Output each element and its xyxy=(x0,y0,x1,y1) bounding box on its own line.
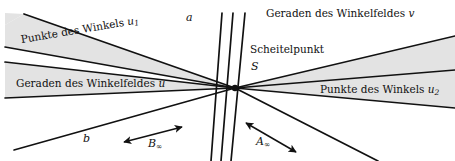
label-lines-of-angle-field-v-symbol: v xyxy=(408,7,414,19)
label-points-of-angle-u2-subscript: 2 xyxy=(435,88,440,97)
label-lines-of-angle-field-v-text: Geraden des Winkelfeldes xyxy=(266,7,408,19)
label-arrow-b-symbol: B xyxy=(148,137,156,150)
angle-field-diagram: a b Punkte des Winkels u1 Geraden des Wi… xyxy=(0,0,455,161)
label-line-a: a xyxy=(186,12,193,23)
label-points-of-angle-u2-symbol: u xyxy=(428,83,435,95)
label-line-b: b xyxy=(83,133,90,144)
label-arrow-a-infinity: A∞ xyxy=(256,136,270,148)
label-arrow-b-infinity: B∞ xyxy=(148,138,162,150)
ray-b xyxy=(14,88,235,150)
label-arrow-b-subscript: ∞ xyxy=(156,142,162,151)
label-arrow-a-subscript: ∞ xyxy=(264,140,270,149)
arrow-a-infinity xyxy=(246,123,296,152)
label-lines-of-angle-field-u-symbol: u xyxy=(158,77,165,89)
label-lines-of-angle-field-u-text: Geraden des Winkelfeldes xyxy=(16,77,158,89)
label-lines-of-angle-field-u: Geraden des Winkelfeldes u xyxy=(16,78,165,89)
vertex-point-s xyxy=(232,85,238,91)
label-arrow-a-symbol: A xyxy=(256,135,264,148)
label-lines-of-angle-field-v: Geraden des Winkelfeldes v xyxy=(266,8,414,19)
label-points-of-angle-u2-text: Punkte des Winkels xyxy=(320,83,428,95)
label-vertex-word: Scheitelpunkt xyxy=(250,44,324,55)
label-points-of-angle-u2: Punkte des Winkels u2 xyxy=(320,84,439,96)
label-vertex-symbol: S xyxy=(251,61,259,72)
